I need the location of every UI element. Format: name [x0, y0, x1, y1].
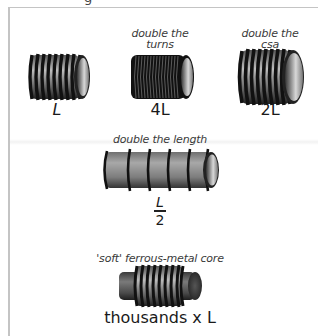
coil-double-length-fraction: L 2: [150, 195, 170, 227]
coil-ferrous-core: [115, 264, 205, 308]
coil-double-length-caption: double the length: [100, 134, 220, 145]
figure-frame-top: [8, 7, 318, 8]
coil-double-csa: [235, 46, 307, 108]
figure-frame-left: [8, 7, 10, 336]
ferrous-core-label-text: thousands x L: [104, 308, 216, 327]
coil-ferrous-core-caption: 'soft' ferrous-metal core: [80, 253, 240, 264]
clipped-heading-fragment: g: [84, 0, 92, 4]
coil-double-turns: [126, 51, 196, 103]
fraction-numerator: L: [150, 195, 170, 209]
coil-ferrous-core-label: thousands x L: [90, 310, 230, 326]
coil-base-label: L: [37, 102, 77, 118]
fraction-denominator: 2: [150, 213, 170, 227]
coil-base: [24, 51, 92, 103]
coil-double-length: [100, 146, 222, 194]
coil-double-turns-caption-2: turns: [120, 39, 200, 50]
coil-double-turns-label: 4L: [140, 102, 180, 118]
coil-double-csa-label: 2L: [250, 102, 290, 118]
